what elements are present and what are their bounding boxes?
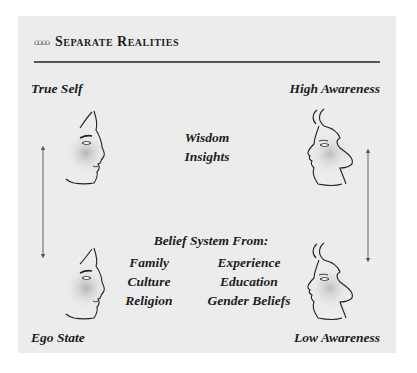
insights-label: Insights <box>18 149 396 165</box>
belief-source-family: Family <box>116 254 182 271</box>
high-awareness-label: High Awareness <box>290 81 380 97</box>
true-self-face-icon <box>64 111 108 184</box>
high-awareness-face-icon <box>308 109 352 186</box>
ego-state-label: Ego State <box>31 330 85 346</box>
belief-system-heading: Belief System From: <box>22 233 400 249</box>
low-awareness-label: Low Awareness <box>294 330 380 346</box>
belief-source-experience: Experience <box>182 254 316 271</box>
wisdom-label: Wisdom <box>18 130 396 146</box>
belief-source-gender-beliefs: Gender Beliefs <box>182 292 316 309</box>
belief-source-culture: Culture <box>116 273 182 290</box>
ego-state-face-icon <box>64 248 108 319</box>
belief-source-religion: Religion <box>116 292 182 309</box>
belief-source-education: Education <box>182 273 316 290</box>
belief-sources-grid: Family Experience Culture Education Reli… <box>116 254 316 309</box>
separate-realities-panel: ꝏꝏ Separate Realities <box>18 16 396 353</box>
true-self-label: True Self <box>31 81 83 97</box>
